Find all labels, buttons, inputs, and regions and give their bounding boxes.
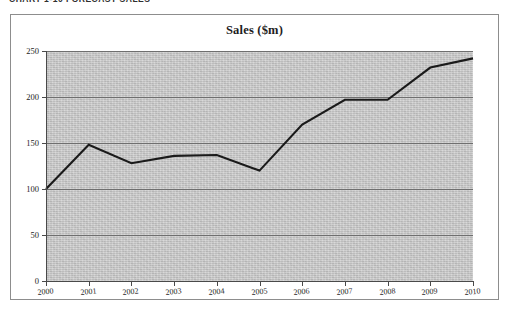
x-tick-mark xyxy=(345,282,346,286)
x-tick-mark xyxy=(430,282,431,286)
x-tick-label: 2010 xyxy=(464,286,481,297)
y-tick-label: 50 xyxy=(11,230,39,240)
x-tick-label: 2008 xyxy=(379,286,396,297)
x-tick-label: 2009 xyxy=(421,286,438,297)
plot-area xyxy=(46,51,473,281)
x-tick-mark xyxy=(302,282,303,286)
y-tick-mark xyxy=(42,97,46,98)
x-tick-label: 2003 xyxy=(165,286,182,297)
x-tick-mark xyxy=(217,282,218,286)
x-tick-label: 2006 xyxy=(293,286,310,297)
x-tick-label: 2004 xyxy=(208,286,225,297)
y-tick-mark xyxy=(42,143,46,144)
y-tick-label: 150 xyxy=(11,138,39,148)
y-tick-label: 200 xyxy=(11,92,39,102)
series-line-sales xyxy=(46,51,473,281)
x-tick-mark xyxy=(46,282,47,286)
x-tick-mark xyxy=(174,282,175,286)
y-tick-label: 250 xyxy=(11,46,39,56)
y-tick-mark xyxy=(42,189,46,190)
figure-caption: CHART 1-10 FORECAST SALES xyxy=(9,0,150,2)
y-axis xyxy=(46,51,47,282)
x-tick-mark xyxy=(131,282,132,286)
x-tick-label: 2005 xyxy=(251,286,268,297)
y-tick-label: 100 xyxy=(11,184,39,194)
x-tick-mark xyxy=(260,282,261,286)
chart-title: Sales ($m) xyxy=(11,23,498,38)
x-tick-label: 2002 xyxy=(122,286,139,297)
x-tick-mark xyxy=(388,282,389,286)
x-tick-label: 2000 xyxy=(37,286,54,297)
y-tick-label: 0 xyxy=(11,276,39,286)
x-tick-label: 2001 xyxy=(80,286,97,297)
y-tick-mark xyxy=(42,51,46,52)
chart-frame: Sales ($m) 050100150200250 2000200120022… xyxy=(10,14,499,300)
x-tick-mark xyxy=(89,282,90,286)
x-tick-mark xyxy=(473,282,474,286)
x-tick-label: 2007 xyxy=(336,286,353,297)
y-tick-mark xyxy=(42,235,46,236)
